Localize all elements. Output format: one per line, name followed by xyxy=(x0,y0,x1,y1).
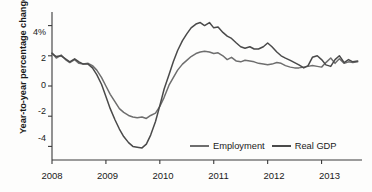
x-tick-label: 2009 xyxy=(86,170,130,181)
legend-label-employment: Employment xyxy=(213,141,265,151)
chart-legend: Employment Real GDP xyxy=(190,141,337,151)
x-tick-label: 2013 xyxy=(308,170,352,181)
y-tick-label: -2 xyxy=(20,106,46,116)
y-tick-label: 4% xyxy=(20,27,46,37)
x-tick-label: 2012 xyxy=(252,170,296,181)
plot-area xyxy=(0,0,372,192)
legend-swatch-real-gdp xyxy=(272,145,291,147)
y-tick-label: 0 xyxy=(20,80,46,90)
y-axis-tick-labels: 4% 2 0 -2 -4 xyxy=(16,0,46,192)
legend-label-real-gdp: Real GDP xyxy=(295,141,337,151)
x-tick-label: 2011 xyxy=(197,170,241,181)
legend-item-employment: Employment xyxy=(190,141,265,151)
legend-swatch-employment xyxy=(190,145,209,147)
y-tick-label: 2 xyxy=(20,53,46,63)
chart-container: Year-to-year percentage change 4% 2 0 -2… xyxy=(0,0,372,192)
y-tick-label: -4 xyxy=(20,133,46,143)
legend-item-real-gdp: Real GDP xyxy=(272,141,337,151)
x-tick-label: 2010 xyxy=(141,170,185,181)
x-tick-label: 2008 xyxy=(30,170,74,181)
